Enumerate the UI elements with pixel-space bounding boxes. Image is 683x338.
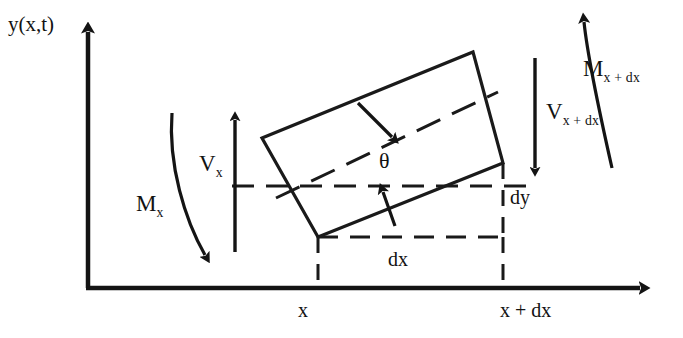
shear-left-symbol: V [199, 151, 216, 176]
theta-upper-pointer-arrow [358, 103, 392, 137]
bending-moment-right-arrow [584, 22, 612, 168]
angle-theta-label: θ [379, 150, 390, 172]
shear-right-subscript: x + dx [563, 113, 600, 128]
shear-right-label: Vx + dx [546, 100, 599, 127]
x-tick-label: x [298, 300, 308, 320]
moment-right-subscript: x + dx [603, 70, 640, 85]
moment-left-label: Mx [136, 192, 164, 219]
x-plus-dx-tick-label: x + dx [500, 300, 551, 320]
shear-left-subscript: x [216, 165, 223, 180]
dx-label: dx [388, 249, 408, 269]
beam-element-figure: y(x,t) Mx Vx θ Vx + dx Mx + dx dy dx x x… [0, 0, 683, 338]
bending-moment-left-arrow [171, 113, 205, 255]
moment-right-label: Mx + dx [583, 57, 640, 84]
moment-left-subscript: x [156, 205, 163, 220]
shear-left-label: Vx [199, 152, 223, 179]
figure-canvas [0, 0, 683, 338]
shear-right-symbol: V [546, 99, 563, 124]
moment-left-symbol: M [136, 191, 156, 216]
y-axis-label: y(x,t) [8, 14, 54, 35]
moment-right-symbol: M [583, 56, 603, 81]
beam-element-outline [262, 52, 503, 237]
dy-label: dy [510, 187, 530, 207]
element-centerline [276, 92, 498, 198]
coordinate-axes [86, 32, 640, 288]
